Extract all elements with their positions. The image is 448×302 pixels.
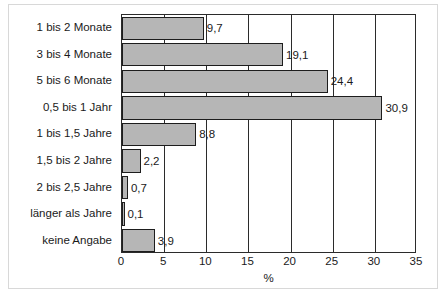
bar[interactable] <box>122 96 382 119</box>
bar-row: 0,7 <box>122 176 415 199</box>
category-label: 3 bis 4 Monate <box>37 47 112 61</box>
category-label: 1 bis 1,5 Jahre <box>37 126 112 140</box>
bar[interactable] <box>122 123 196 146</box>
x-tick-label: 25 <box>325 255 338 267</box>
bar[interactable] <box>122 70 328 93</box>
bar-row: 9,7 <box>122 17 415 40</box>
bar-value-label: 8,8 <box>196 128 215 140</box>
plot-area: 9,719,124,430,98,82,20,70,13,9 <box>121 14 416 253</box>
bar-value-label: 0,1 <box>125 208 144 220</box>
x-tick-label: 35 <box>410 255 423 267</box>
category-label: länger als Jahre <box>30 206 112 220</box>
bar-value-label: 0,7 <box>128 182 147 194</box>
bar[interactable] <box>122 229 155 252</box>
bar-value-label: 2,2 <box>141 155 160 167</box>
bar[interactable] <box>122 17 204 40</box>
bar-value-label: 9,7 <box>204 22 223 34</box>
category-label: 1,5 bis 2 Jahre <box>37 153 112 167</box>
bar-value-label: 30,9 <box>382 102 407 114</box>
bar-value-label: 24,4 <box>328 75 353 87</box>
x-tick-label: 5 <box>160 255 166 267</box>
x-axis: 05101520253035 <box>121 253 416 271</box>
category-label: keine Angabe <box>42 233 112 247</box>
bar[interactable] <box>122 43 283 66</box>
x-tick-label: 10 <box>199 255 212 267</box>
category-label: 0,5 bis 1 Jahr <box>43 100 112 114</box>
bar-row: 30,9 <box>122 96 415 119</box>
category-label: 5 bis 6 Monate <box>37 73 112 87</box>
chart-figure: 1 bis 2 Monate3 bis 4 Monate5 bis 6 Mona… <box>0 0 448 302</box>
x-tick-label: 20 <box>283 255 296 267</box>
bar-value-label: 3,9 <box>155 235 174 247</box>
bar-row: 2,2 <box>122 149 415 172</box>
bar-row: 24,4 <box>122 70 415 93</box>
x-tick-label: 15 <box>241 255 254 267</box>
bar-value-label: 19,1 <box>283 49 308 61</box>
bar-row: 3,9 <box>122 229 415 252</box>
x-axis-title: % <box>121 272 416 284</box>
category-axis: 1 bis 2 Monate3 bis 4 Monate5 bis 6 Mona… <box>8 14 118 253</box>
bar-row: 8,8 <box>122 123 415 146</box>
bar-row: 19,1 <box>122 43 415 66</box>
bar-row: 0,1 <box>122 202 415 225</box>
x-tick-label: 30 <box>367 255 380 267</box>
x-tick-label: 0 <box>118 255 124 267</box>
bar[interactable] <box>122 149 141 172</box>
category-label: 1 bis 2 Monate <box>37 20 112 34</box>
category-label: 2 bis 2,5 Jahre <box>37 180 112 194</box>
